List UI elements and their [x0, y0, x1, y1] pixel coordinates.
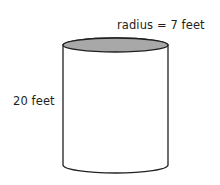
cylinder-top-face — [63, 38, 168, 52]
height-label: 20 feet — [13, 95, 55, 108]
radius-label: radius = 7 feet — [117, 19, 205, 32]
cylinder-diagram: radius = 7 feet 20 feet — [0, 0, 220, 185]
cylinder-body — [63, 38, 168, 173]
